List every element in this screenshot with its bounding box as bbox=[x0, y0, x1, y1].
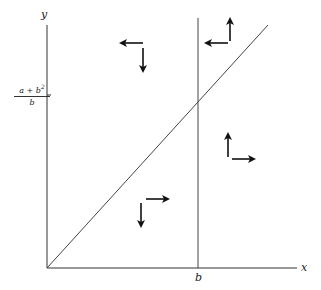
diagonal-line bbox=[47, 25, 268, 268]
y-axis-label: y bbox=[41, 8, 47, 21]
y-tick-denominator: b bbox=[14, 97, 50, 107]
y-tick-numerator: a + b2 bbox=[14, 83, 50, 97]
y-tick-label: a + b2 b bbox=[14, 83, 50, 107]
arrow-pair-bottom-left bbox=[141, 199, 168, 226]
x-axis-label: x bbox=[301, 261, 307, 274]
arrow-pair-top-right bbox=[206, 19, 230, 43]
phase-diagram bbox=[0, 0, 321, 290]
arrow-pair-top-left bbox=[121, 43, 143, 71]
x-tick-label: b bbox=[195, 271, 202, 284]
arrow-pair-bottom-right bbox=[228, 134, 254, 159]
